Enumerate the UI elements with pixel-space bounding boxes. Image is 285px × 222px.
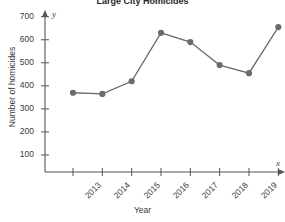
data-point-2016[interactable] (158, 30, 164, 36)
y-axis-arrow-icon (42, 10, 48, 17)
chart-container: Large City Homicides Number of homicides… (0, 0, 285, 222)
x-axis-name-glyph: x (275, 158, 280, 168)
data-point-2020[interactable] (275, 24, 281, 30)
data-series-markers (70, 24, 282, 97)
data-point-2015[interactable] (129, 78, 135, 84)
data-point-2013[interactable] (70, 90, 76, 96)
data-series-line (73, 27, 278, 94)
data-point-2017[interactable] (187, 39, 193, 45)
y-axis-name-glyph: y (51, 9, 56, 19)
data-point-2014[interactable] (99, 91, 105, 97)
x-axis-arrow-icon (278, 169, 285, 175)
data-point-2018[interactable] (217, 62, 223, 68)
data-point-2019[interactable] (246, 70, 252, 76)
series-polyline (73, 27, 278, 94)
plot-area: y x (0, 0, 285, 222)
